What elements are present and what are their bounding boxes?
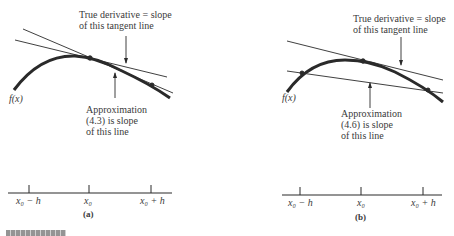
panel-a-true-derivative-line2: of this tangent line [79, 21, 154, 31]
panel-a-point-x0-plus-h [150, 83, 154, 87]
panel-a-curve [14, 56, 170, 98]
panel-b-approximation-line3: of this line [341, 131, 384, 141]
panel-b-point-x0-plus-h [426, 88, 430, 92]
panel-b-point-x0 [361, 59, 365, 63]
panel-a-caption: (a) [83, 209, 94, 219]
panel-b-tick-x0: x₀ [357, 198, 365, 208]
panel-a-function-label: f(x) [9, 94, 23, 104]
panel-b-true-derivative-line1: True derivative = slope [353, 14, 446, 24]
panel-b-caption: (b) [355, 212, 366, 222]
panel-b-approximation-line1: Approximation [341, 109, 402, 119]
panel-b-approximation-line2: (4.6) is slope [341, 120, 393, 130]
panel-a-approximation-line3: of this line [86, 127, 129, 137]
panel-a-point-x0 [88, 56, 92, 60]
panel-a-tick-x0: x₀ [84, 196, 92, 206]
panel-b-tick-x0-plus-h: x₀ + h [411, 198, 436, 208]
panel-a-true-derivative-line1: True derivative = slope [79, 10, 172, 20]
panel-b-point-x0-minus-h [300, 71, 304, 75]
panel-b-tick-x0-minus-h: x₀ − h [288, 198, 313, 208]
panel-a-tick-x0-minus-h: x₀ − h [16, 196, 41, 206]
panel-a-tick-x0-plus-h: x₀ + h [140, 196, 165, 206]
figure-caption-cutoff [6, 230, 66, 236]
panel-b-function-label: f(x) [282, 93, 296, 103]
panel-a-approximation-line2: (4.3) is slope [86, 116, 138, 126]
panel-b-curve [287, 60, 443, 102]
panel-b-true-derivative-line2: of this tangent line [353, 25, 428, 35]
panel-a-approximation-line1: Approximation [86, 105, 147, 115]
